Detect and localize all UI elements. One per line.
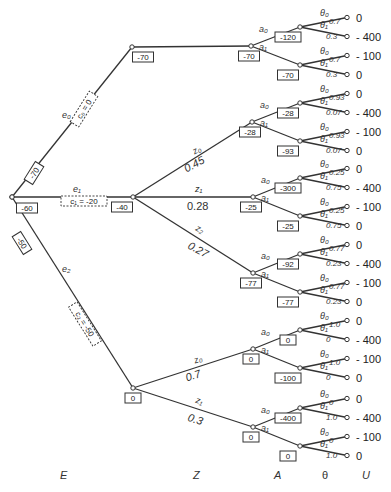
theta-label-t1: θ₁: [320, 323, 328, 333]
utility-value: - 400: [356, 258, 381, 270]
utility-value: - 100: [356, 353, 381, 365]
theta-label-t1: θ₁: [320, 401, 328, 411]
theta-node-value-a1-0-text: -70: [282, 71, 294, 80]
terminal-node: [345, 261, 349, 265]
theta-prob-p0: 0.93: [329, 93, 345, 102]
action-label-a1-5: a₁: [261, 423, 269, 433]
root-value-box-text: -60: [21, 204, 33, 213]
action-label-a0-0: a₀: [259, 24, 268, 34]
theta-label-t0: θ₀: [320, 427, 329, 437]
theta-label-t0: θ₀: [320, 273, 329, 283]
theta-label-t0: θ₀: [320, 122, 329, 132]
theta-node-a1-4: [298, 366, 302, 370]
terminal-node: [345, 375, 349, 379]
theta-node-a0-4: [298, 328, 302, 332]
a-node-value-0: -70: [239, 51, 260, 61]
tree-nodes: [10, 15, 349, 457]
terminal-node: [345, 72, 349, 76]
axis-label-e: E: [60, 469, 68, 481]
a-node-value-2-text: -25: [245, 203, 257, 212]
root-value-box: -60: [17, 203, 38, 213]
theta-prob-p0: 0.7: [329, 55, 341, 64]
terminal-node: [345, 434, 349, 438]
terminal-node: [345, 34, 349, 38]
utility-value: 0: [356, 450, 362, 462]
z-node-0: [130, 45, 134, 49]
terminal-node: [345, 129, 349, 133]
theta-prob-p0: 0: [329, 436, 334, 445]
axis-label-a: A: [273, 469, 281, 481]
terminal-node: [345, 223, 349, 227]
experiment-cost-e0: c₀ = 0: [70, 91, 98, 127]
theta-prob-p0: 0.77: [329, 244, 345, 253]
theta-node-value-a1-2: -25: [278, 221, 299, 231]
terminal-node: [345, 242, 349, 246]
tree-edges: [12, 18, 347, 456]
theta-label-t0: θ₀: [320, 349, 329, 359]
a-node-value-1-text: -28: [244, 128, 256, 137]
experiment-label-e0: e₀: [62, 110, 71, 120]
theta-prob-p1: 1.0: [326, 413, 338, 422]
utility-value: - 400: [356, 107, 381, 119]
theta-node-value-a1-2-text: -25: [282, 222, 294, 231]
theta-label-t0: θ₀: [320, 197, 329, 207]
terminal-node: [345, 185, 349, 189]
utility-value: - 100: [356, 277, 381, 289]
a-node-value-2: -25: [241, 202, 262, 212]
theta-node-value-a1-5-text: 0: [286, 452, 291, 461]
theta-label-t1: θ₁: [320, 209, 328, 219]
theta-node-value-a1-3: -77: [278, 297, 299, 307]
decision-tree: -60e₀c₀ = 0-70-70e₁c₁ = -20-40e₂c₂ = -50…: [0, 0, 391, 492]
z-label-4: z₀: [192, 353, 204, 365]
theta-label-t0: θ₀: [320, 8, 329, 18]
experiment-label-e2: e₂: [62, 264, 71, 274]
theta-node-value-a0-4-text: 0: [286, 336, 291, 345]
experiment-cost-e2: c₂ = -50: [69, 302, 102, 346]
theta-label-t0: θ₀: [320, 46, 329, 56]
z-node-value-e0: -70: [133, 52, 154, 62]
a-node-0: [249, 44, 253, 48]
terminal-node: [345, 356, 349, 360]
theta-node-value-a0-5-text: -400: [280, 414, 297, 423]
theta-prob-p0: 0.25: [329, 206, 345, 215]
theta-label-t1: θ₁: [320, 285, 328, 295]
theta-prob-p0: 0.25: [329, 168, 345, 177]
theta-node-value-a1-3-text: -77: [282, 298, 294, 307]
utility-value: 0: [356, 393, 362, 405]
action-label-a0-4: a₀: [261, 327, 270, 337]
terminal-node: [345, 148, 349, 152]
theta-node-value-a0-5: -400: [275, 413, 301, 423]
theta-prob-p1: 0.07: [326, 108, 342, 117]
theta-label-t1: θ₁: [320, 247, 328, 257]
theta-node-value-a1-4: -100: [275, 373, 301, 383]
z-node-2: [131, 386, 135, 390]
theta-node-a0-0: [298, 25, 302, 29]
theta-node-a1-5: [298, 444, 302, 448]
edge-experiment-2: [12, 197, 133, 388]
utility-value: 0: [356, 220, 362, 232]
z-label-5: z₁: [193, 395, 204, 407]
a-node-value-3: -77: [241, 278, 262, 288]
theta-node-value-a0-1-text: -28: [282, 109, 294, 118]
action-label-a1-0: a₁: [259, 42, 267, 52]
theta-node-value-a1-4-text: -100: [280, 374, 297, 383]
theta-node-a0-3: [298, 252, 302, 256]
action-label-a0-5: a₀: [261, 405, 270, 415]
terminal-node: [345, 337, 349, 341]
theta-label-t0: θ₀: [320, 235, 329, 245]
z-prob-3: 0.27: [186, 239, 211, 260]
theta-label-t0: θ₀: [320, 389, 329, 399]
theta-prob-p1: 0: [326, 373, 331, 382]
theta-node-a0-1: [298, 101, 302, 105]
theta-prob-p0: 0: [329, 398, 334, 407]
theta-label-t1: θ₁: [320, 20, 328, 30]
theta-node-a1-1: [298, 139, 302, 143]
theta-prob-p0: 0.77: [329, 282, 345, 291]
action-label-a0-2: a₀: [261, 175, 270, 185]
theta-node-a1-3: [298, 290, 302, 294]
terminal-node: [345, 299, 349, 303]
theta-node-a0-2: [298, 176, 302, 180]
utility-value: 0: [356, 69, 362, 81]
theta-prob-p1: 0.23: [326, 259, 342, 268]
theta-prob-p1: 0.23: [326, 297, 342, 306]
